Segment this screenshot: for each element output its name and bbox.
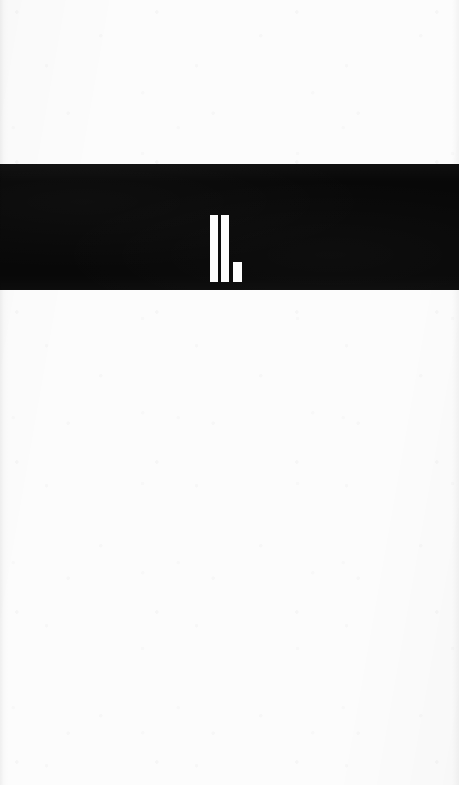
blank-area-top: [0, 0, 459, 164]
numeral-stroke-first-bar-icon: [210, 215, 218, 282]
numeral-stroke-second-bar-icon: [221, 215, 229, 282]
blank-area-bottom: [0, 290, 459, 785]
page-canvas: II.: [0, 0, 459, 785]
numeral-period-icon: [233, 262, 242, 282]
chapter-divider-band: [0, 164, 459, 290]
